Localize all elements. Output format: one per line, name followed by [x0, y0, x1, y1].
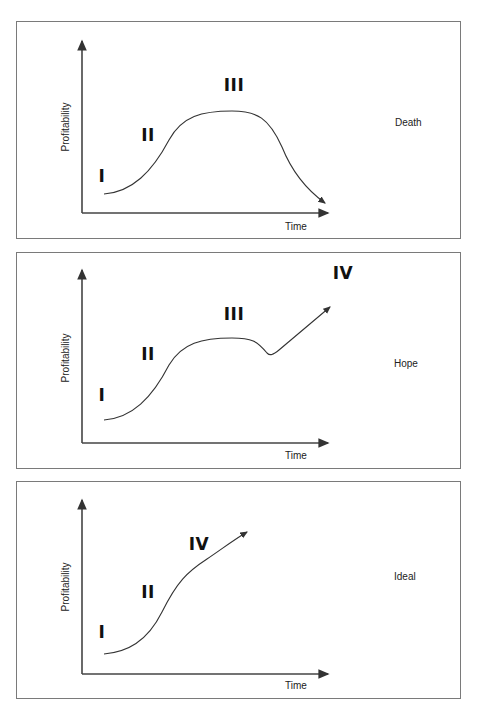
stage-label-iv: IV — [189, 534, 209, 554]
state-label: Hope — [394, 358, 418, 369]
state-label: Ideal — [394, 571, 416, 582]
y-axis-label: Profitability — [60, 563, 71, 612]
chart-ideal — [17, 482, 462, 700]
stage-label-iv: IV — [333, 263, 353, 283]
stage-label-iii: III — [224, 304, 244, 324]
stage-label-ii: II — [141, 582, 155, 602]
x-axis-label: Time — [285, 680, 307, 691]
profitability-curve — [104, 307, 330, 420]
stage-label-ii: II — [141, 125, 155, 145]
panel-hope: Profitability Time Hope I II III IV — [16, 252, 461, 469]
stage-label-ii: II — [141, 344, 155, 364]
panel-ideal: Profitability Time Ideal I II IV — [16, 481, 461, 699]
x-axis-label: Time — [285, 450, 307, 461]
profitability-curve — [104, 111, 325, 203]
panel-death: Profitability Time Death I II III — [16, 21, 461, 239]
profitability-curve — [104, 532, 247, 654]
chart-death — [17, 22, 462, 240]
state-label: Death — [395, 117, 422, 128]
stage-label-iii: III — [224, 75, 244, 95]
stage-label-i: I — [99, 385, 106, 405]
stage-label-i: I — [99, 622, 106, 642]
stage-label-i: I — [99, 166, 106, 186]
x-axis-label: Time — [285, 221, 307, 232]
y-axis-label: Profitability — [60, 103, 71, 152]
y-axis-label: Profitability — [60, 334, 71, 383]
